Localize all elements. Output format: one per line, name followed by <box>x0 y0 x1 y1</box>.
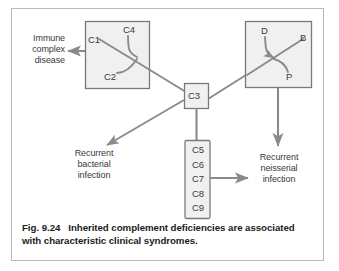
node-label-d: D <box>261 25 268 36</box>
node-label-c2: C2 <box>104 71 116 82</box>
figure-number: Fig. 9.24 <box>22 222 60 233</box>
outcome-recurrent-bacterial-infection: Recurrent bacterial infection <box>63 148 125 181</box>
node-label-c1: C1 <box>88 34 100 45</box>
classical-pathway-box <box>86 22 150 89</box>
node-label-p: P <box>286 71 292 82</box>
outcome-recurrent-neisserial-infection: Recurrent neisserial infection <box>248 152 310 185</box>
figure-caption: Fig. 9.24 Inherited complement deficienc… <box>22 222 314 247</box>
node-label-terminal-components: C5 C6 C7 C8 C9 <box>185 143 211 216</box>
node-label-b: B <box>300 32 306 43</box>
node-label-c4: C4 <box>123 24 135 35</box>
node-label-c3: C3 <box>188 90 200 101</box>
c3-to-bacterial-arrow <box>107 100 184 145</box>
outcome-immune-complex-disease: Immune complex disease <box>17 33 65 66</box>
figure-container: Immune complex disease C1 C4 C2 D B P C3… <box>0 0 339 271</box>
